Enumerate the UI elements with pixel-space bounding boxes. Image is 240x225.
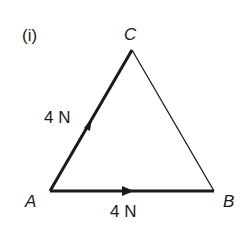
part-label: (i) (22, 27, 37, 44)
force-ab-label: 4 N (110, 203, 136, 220)
arrow-ab-icon (122, 186, 134, 196)
vertex-a-label: A (25, 193, 36, 210)
force-ac-label: 4 N (44, 109, 70, 126)
vertex-c-label: C (124, 26, 136, 43)
vertex-b-label: B (223, 193, 234, 210)
force-triangle-diagram: (i) C 4 N A B 4 N (0, 0, 240, 225)
side-bc (132, 50, 214, 191)
